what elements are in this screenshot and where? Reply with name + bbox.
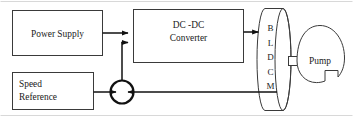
diagram-canvas: Power Supply DC -DC Converter Speed Refe… (0, 0, 353, 117)
dc-dc-converter-label-line1: DC -DC (173, 20, 205, 30)
pump-label: Pump (309, 56, 331, 66)
bldcm-letter-4: M (266, 81, 274, 91)
bldcm-motor-block (257, 9, 291, 111)
speed-reference-label-line2: Reference (19, 92, 57, 102)
bldcm-letter-2: D (267, 52, 274, 62)
dc-dc-converter-label-line2: Converter (170, 33, 208, 43)
pump-block (297, 26, 345, 83)
bldcm-letter-0: B (267, 23, 273, 33)
speed-reference-label-line1: Speed (19, 79, 42, 89)
shaft-coupling (289, 57, 298, 66)
bldcm-letter-1: L (268, 38, 274, 48)
power-supply-label: Power Supply (31, 29, 84, 39)
bldcm-letter-3: C (267, 67, 273, 77)
block-diagram: Power Supply DC -DC Converter Speed Refe… (0, 0, 353, 117)
